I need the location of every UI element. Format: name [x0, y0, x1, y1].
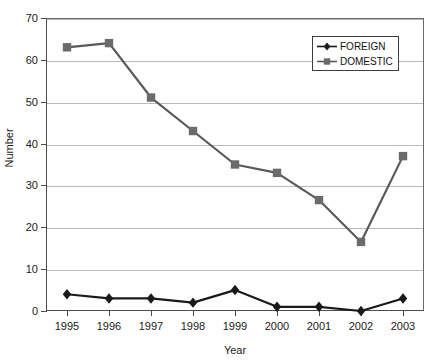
- gridline-70: [47, 19, 423, 20]
- y-tick-0: [41, 311, 46, 312]
- x-tick-label-2002: 2002: [338, 320, 384, 332]
- gridline-30: [47, 186, 423, 187]
- square-marker-icon: [316, 54, 338, 69]
- y-tick-label-0-wrap: 0: [8, 306, 38, 317]
- y-tick-label-10-wrap: 10: [8, 264, 38, 275]
- y-tick-label-70: 70: [8, 13, 38, 24]
- x-tick-label-2003: 2003: [380, 320, 426, 332]
- legend-item-domestic: DOMESTIC: [316, 54, 398, 69]
- y-tick-label-70-wrap: 70: [8, 13, 38, 24]
- y-tick-label-20-wrap: 20: [8, 222, 38, 233]
- y-tick-40: [41, 144, 46, 145]
- x-tick-label-2000: 2000: [254, 320, 300, 332]
- y-axis-line: [46, 18, 47, 312]
- legend-item-foreign: FOREIGN: [316, 39, 398, 54]
- y-tick-10: [41, 269, 46, 270]
- x-tick-1995: [67, 311, 68, 316]
- y-tick-label-30: 30: [8, 180, 38, 191]
- x-tick-1999: [235, 311, 236, 316]
- y-tick-label-10: 10: [8, 264, 38, 275]
- legend: FOREIGN DOMESTIC: [312, 36, 399, 71]
- y-tick-20: [41, 227, 46, 228]
- y-tick-label-50: 50: [8, 97, 38, 108]
- x-axis-title: Year: [46, 344, 424, 356]
- x-tick-label-1998: 1998: [170, 320, 216, 332]
- x-tick-2002: [361, 311, 362, 316]
- y-tick-30: [41, 185, 46, 186]
- legend-label-foreign: FOREIGN: [340, 40, 386, 53]
- gridline-10: [47, 270, 423, 271]
- x-tick-label-1999: 1999: [212, 320, 258, 332]
- y-tick-50: [41, 102, 46, 103]
- y-tick-label-60-wrap: 60: [8, 55, 38, 66]
- x-tick-1996: [109, 311, 110, 316]
- y-tick-label-30-wrap: 30: [8, 180, 38, 191]
- y-axis-title: Number: [3, 118, 15, 178]
- x-tick-label-1996: 1996: [86, 320, 132, 332]
- y-tick-label-50-wrap: 50: [8, 97, 38, 108]
- y-tick-70: [41, 18, 46, 19]
- x-tick-2003: [403, 311, 404, 316]
- y-tick-label-60: 60: [8, 55, 38, 66]
- x-tick-label-1997: 1997: [128, 320, 174, 332]
- x-tick-1997: [151, 311, 152, 316]
- gridline-40: [47, 145, 423, 146]
- legend-label-domestic: DOMESTIC: [340, 55, 393, 68]
- line-chart: 70 60 50 40 30 20 10 0 Number 1995 1996 …: [0, 0, 436, 364]
- gridline-20: [47, 228, 423, 229]
- x-tick-1998: [193, 311, 194, 316]
- gridline-50: [47, 103, 423, 104]
- y-tick-label-0: 0: [8, 306, 38, 317]
- diamond-marker-icon: [316, 39, 338, 54]
- x-tick-label-2001: 2001: [296, 320, 342, 332]
- x-tick-2000: [277, 311, 278, 316]
- y-tick-label-20: 20: [8, 222, 38, 233]
- y-tick-60: [41, 60, 46, 61]
- x-tick-2001: [319, 311, 320, 316]
- x-tick-label-1995: 1995: [44, 320, 90, 332]
